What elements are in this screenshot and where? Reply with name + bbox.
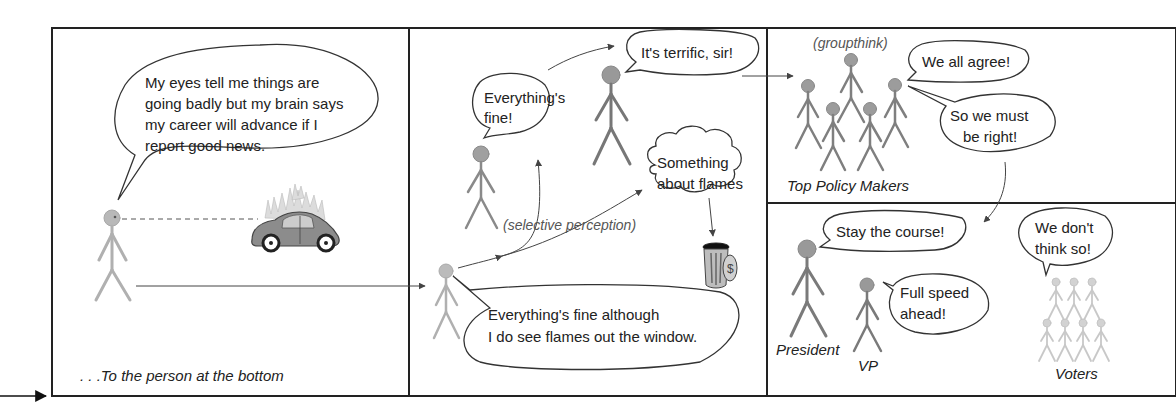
- speech-low-line-2: I do see flames out the window.: [488, 328, 697, 345]
- label-president: President: [776, 341, 840, 358]
- speech-we-all-agree: We all agree!: [922, 53, 1010, 70]
- stick-figure-group-policy-makers: [796, 54, 908, 171]
- thought-line-2: about flames: [657, 175, 743, 192]
- stick-figure-group-voters: [1039, 278, 1109, 361]
- speech-president: Stay the course!: [836, 223, 944, 240]
- stick-figure-president: [791, 240, 826, 336]
- label-voters: Voters: [1055, 365, 1098, 382]
- speech-mid-line-1: Everything's: [484, 89, 565, 106]
- flow-arrow-2b: [548, 46, 614, 70]
- speech-line-1: My eyes tell me things are: [145, 74, 319, 91]
- speech-line-4: report good news.: [145, 137, 265, 154]
- label-vp: VP: [858, 357, 878, 374]
- panel-1-caption: . . .To the person at the bottom: [80, 367, 284, 384]
- speech-bubble-vp: [883, 274, 989, 334]
- panel-4: Stay the course! President Full speed ah…: [776, 208, 1112, 382]
- burning-car-icon: [252, 184, 339, 251]
- stick-figure-vp: [854, 278, 881, 351]
- stick-figure-low-staff: [434, 264, 459, 338]
- comic-diagram: My eyes tell me things are going badly b…: [0, 0, 1176, 407]
- selective-perception-label: (selective perception): [503, 217, 636, 233]
- speech-vp-line-1: Full speed: [900, 284, 969, 301]
- flow-arrow-4: [984, 162, 1006, 222]
- trash-can-icon: $: [703, 243, 737, 288]
- flow-arrow-up: [502, 160, 540, 256]
- speech-line-3: my career will advance if I: [145, 116, 318, 133]
- groupthink-label: (groupthink): [813, 35, 888, 51]
- speech-line-2: going badly but my brain says: [145, 95, 343, 112]
- speech-must-be-right-line-1: So we must: [950, 107, 1029, 124]
- stick-figure-mid-manager: [466, 146, 497, 228]
- speech-must-be-right-line-2: be right!: [963, 128, 1017, 145]
- speech-mid-line-2: fine!: [484, 109, 512, 126]
- panel-1: My eyes tell me things are going badly b…: [80, 44, 425, 384]
- speech-top-text: It's terrific, sir!: [641, 44, 733, 61]
- thought-line-1: Something: [657, 154, 729, 171]
- flow-arrow-trash: [709, 198, 713, 236]
- svg-text:$: $: [727, 262, 734, 276]
- speech-low-line-1: Everything's fine although: [488, 306, 659, 323]
- stick-figure-senior-manager: [594, 66, 630, 164]
- speech-voters-line-1: We don't: [1035, 219, 1094, 236]
- stick-figure-bottom-person: [96, 210, 130, 300]
- speech-voters-line-2: think so!: [1035, 240, 1091, 257]
- panel-3: (groupthink): [787, 35, 1055, 222]
- panel-3-caption: Top Policy Makers: [787, 177, 909, 194]
- speech-vp-line-2: ahead!: [900, 305, 946, 322]
- panel-2: Everything's fine although I do see flam…: [434, 30, 793, 370]
- flow-arrow-2a: [458, 256, 502, 268]
